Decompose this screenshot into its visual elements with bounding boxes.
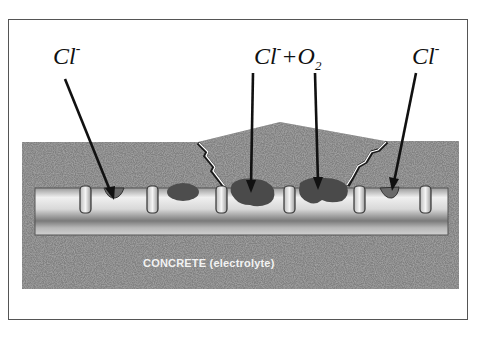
label-chloride-right-base: Cl xyxy=(412,43,435,69)
label-chloride-left-base: Cl xyxy=(53,43,76,69)
label-chloride-left-sup: - xyxy=(76,41,81,56)
corrosion-product-center-right xyxy=(299,178,348,204)
corrosion-product-small xyxy=(167,183,199,201)
label-center-sub: 2 xyxy=(315,58,322,73)
label-chloride-right-sup: - xyxy=(435,41,440,56)
label-center-o: O xyxy=(298,43,315,69)
label-center-cl: Cl xyxy=(254,43,277,69)
label-chloride-left: Cl- xyxy=(53,44,80,68)
label-center-sup: - xyxy=(277,41,282,56)
concrete-label: CONCRETE (electrolyte) xyxy=(143,257,275,269)
label-chloride-right: Cl- xyxy=(412,44,439,68)
label-chloride-oxygen-center: Cl-+O2 xyxy=(254,44,321,68)
label-center-plus: + xyxy=(281,43,297,69)
